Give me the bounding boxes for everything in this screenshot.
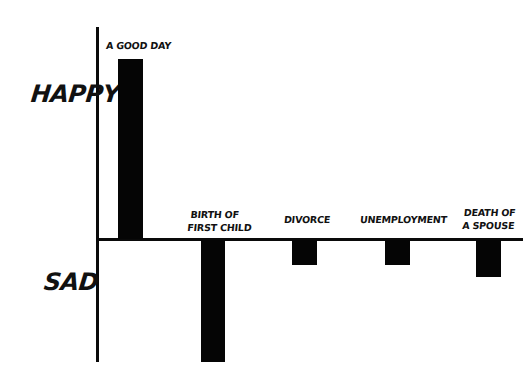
label-line: BIRTH OF <box>188 208 241 221</box>
y-axis-line <box>96 27 99 362</box>
category-label-divorce: DIVORCE <box>283 213 330 226</box>
label-line: A SPOUSE <box>462 219 515 232</box>
happiness-bar-chart: HAPPY SAD A GOOD DAY BIRTH OF FIRST CHIL… <box>0 0 526 387</box>
category-label-a-good-day: A GOOD DAY <box>105 39 171 52</box>
category-label-birth-of-first-child: BIRTH OF FIRST CHILD <box>187 208 242 234</box>
category-label-death-of-a-spouse: DEATH OF A SPOUSE <box>462 206 517 232</box>
bar-death-of-a-spouse <box>476 240 501 277</box>
bar-birth-of-first-child <box>201 240 225 362</box>
label-line: A GOOD DAY <box>105 39 171 52</box>
y-label-happy: HAPPY <box>30 80 122 108</box>
bar-a-good-day <box>118 59 143 239</box>
category-label-unemployment: UNEMPLOYMENT <box>359 213 447 226</box>
bar-divorce <box>292 240 317 265</box>
label-line: DIVORCE <box>283 213 330 226</box>
label-line: DEATH OF <box>463 206 516 219</box>
bar-unemployment <box>385 240 410 265</box>
label-line: FIRST CHILD <box>187 221 240 234</box>
y-label-sad: SAD <box>43 268 100 296</box>
label-line: UNEMPLOYMENT <box>359 213 447 226</box>
